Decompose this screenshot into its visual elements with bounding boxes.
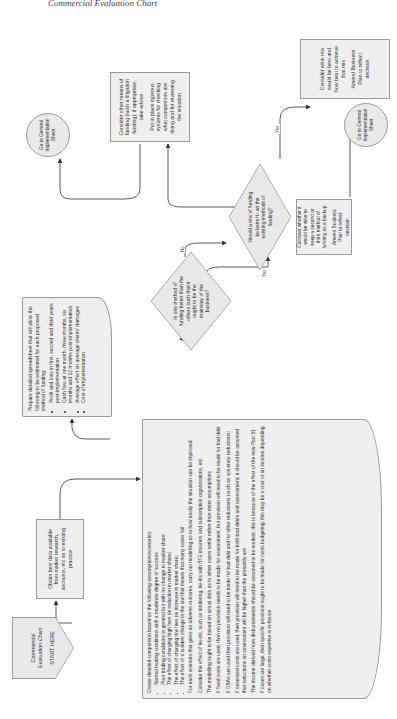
decision-one-text: Is one method of funding better than the… [168, 275, 214, 327]
other-funding-box: Consider other means of funding (such a … [110, 72, 190, 142]
comparison-paragraph: If DBAs are used then provision will nee… [226, 425, 232, 693]
goto-left-text: Go to General Implementation Sheet [39, 114, 58, 156]
decision-one-method: Is one method of funding better than the… [150, 251, 232, 351]
start-title: Commercial Evaluation Chart [30, 622, 44, 674]
mix-text: Consider what mix would be best and how … [319, 45, 346, 93]
start-node: Commercial Evaluation Chart START HERE [12, 617, 74, 679]
start-label: START HERE [49, 631, 56, 665]
spreadsheet-bullet: Cost of implementation [80, 303, 87, 403]
other-funding-text: Consider other means of funding (such a … [118, 78, 145, 136]
backup-method-box: Consider whether it would be wise to kee… [296, 199, 352, 255]
obtain-data-text: Obtain best data available from market r… [47, 525, 74, 593]
obtain-data-box: Obtain best data available from market r… [36, 519, 84, 599]
goto-right-text: Go to General Implementation Sheet [357, 104, 376, 146]
comparison-paragraph: For each scenario that gives an adverse … [188, 425, 194, 693]
spreadsheet-bullet: Profit and loss in first, second and thi… [48, 303, 61, 403]
other-funding-systems-text: Put in place rigorous systems for checki… [149, 78, 183, 136]
spreadsheet-box: Prepare detailed spreadsheet that will a… [22, 297, 112, 417]
comparison-bullets: Normal trading conditions with a moderat… [154, 425, 186, 693]
comparison-paragraph: The income derived from disbursements sh… [251, 425, 257, 693]
mix-amend-text: Amend Business Plan to reflect decision [350, 45, 370, 93]
backup-method-text: Consider whether it would be wise to kee… [297, 205, 328, 249]
flowchart-canvas: Commercial Evaluation Chart START HERE O… [0, 0, 397, 719]
comparison-intro: Create detailed comparison based on the … [147, 425, 153, 693]
comparison-paragraph: If cases are large, then specific provis… [260, 425, 273, 693]
comparison-box: Create detailed comparison based on the … [142, 419, 382, 699]
comparison-paragraph: If assessed costs are used, then provisi… [235, 425, 248, 693]
decision-mix-text: Would a mix of funding be better than th… [240, 189, 280, 245]
decision-mix-no-label: No [255, 211, 260, 219]
decision-mix: Would a mix of funding be better than th… [228, 163, 292, 271]
spreadsheet-bullets: Profit and loss in first, second and thi… [48, 303, 87, 411]
comparison-bullet: The effect of a sudden change in the law… [180, 425, 186, 685]
decision-one-no-label: No [180, 245, 185, 253]
spreadsheet-bullet: Cash flow at one month, three months, si… [61, 303, 74, 403]
backup-amend-text: Amend Business Plan to reflect decision [332, 205, 351, 249]
mix-box: Consider what mix would be best and how … [300, 39, 390, 99]
decision-mix-yes-label: Yes [275, 125, 280, 135]
comparison-paragraph: The modelling ought to be based on actua… [207, 425, 213, 693]
spreadsheet-intro: Prepare detailed spreadsheet that will a… [27, 303, 47, 411]
goto-implementation-left: Go to General Implementation Sheet [26, 113, 70, 157]
goto-implementation-right: Go to General Implementation Sheet [344, 103, 388, 147]
comparison-paragraph: If fixed costs are used, then no provisi… [216, 425, 222, 693]
comparison-paragraph: Consider the effect of tie-ins, such as … [198, 425, 204, 693]
